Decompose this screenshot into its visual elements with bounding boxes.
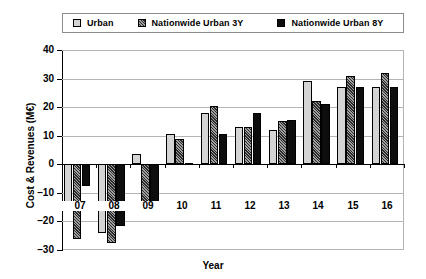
bar-nationwide-3y-14 bbox=[312, 101, 321, 164]
x-axis-tick bbox=[267, 164, 268, 168]
bar-urban-12 bbox=[235, 127, 244, 164]
x-axis-tick-label: 12 bbox=[233, 201, 267, 211]
x-axis-tick-label: 10 bbox=[165, 201, 199, 211]
x-axis-tick-label: 08 bbox=[96, 201, 132, 211]
x-axis-tick-label: 07 bbox=[62, 201, 98, 211]
x-axis-tick bbox=[336, 164, 337, 168]
x-axis-tick bbox=[233, 164, 234, 168]
bar-nationwide-3y-11 bbox=[210, 106, 219, 165]
x-axis-tick bbox=[165, 164, 166, 168]
bar-group bbox=[201, 50, 228, 250]
bar-nationwide-8y-08 bbox=[116, 164, 125, 225]
legend-item-nationwide-3y: Nationwide Urban 3Y bbox=[138, 14, 244, 32]
x-axis-tick bbox=[96, 164, 97, 168]
nationwide-3y-swatch-icon bbox=[138, 19, 146, 27]
bar-group bbox=[269, 50, 296, 250]
y-axis-tick-label: 0 bbox=[48, 159, 54, 169]
bar-nationwide-8y-10 bbox=[185, 163, 194, 165]
bar-urban-15 bbox=[337, 87, 346, 164]
x-axis-tick bbox=[404, 164, 405, 168]
legend-label-nationwide-3y: Nationwide Urban 3Y bbox=[152, 19, 244, 28]
bar-group bbox=[235, 50, 262, 250]
bar-urban-08 bbox=[98, 164, 107, 233]
x-axis-title: Year bbox=[0, 260, 426, 271]
urban-swatch-icon bbox=[73, 19, 81, 27]
y-axis-title: Cost & Revenues (M€) bbox=[25, 66, 36, 246]
x-axis-tick-label: 13 bbox=[267, 201, 301, 211]
legend-label-urban: Urban bbox=[87, 19, 114, 28]
bar-group bbox=[64, 50, 91, 250]
legend-item-nationwide-8y: Nationwide Urban 8Y bbox=[277, 14, 383, 32]
legend-item-urban: Urban bbox=[73, 14, 114, 32]
bar-group bbox=[166, 50, 193, 250]
bar-group bbox=[337, 50, 364, 250]
bar-nationwide-8y-13 bbox=[287, 120, 296, 164]
x-axis-tick-label: 15 bbox=[336, 201, 370, 211]
bar-nationwide-3y-13 bbox=[278, 121, 287, 165]
y-axis-tick-label: 10 bbox=[43, 131, 54, 141]
legend-label-nationwide-8y: Nationwide Urban 8Y bbox=[291, 19, 383, 28]
bar-nationwide-3y-15 bbox=[346, 76, 355, 165]
bar-group bbox=[372, 50, 399, 250]
y-axis-tick-label: 40 bbox=[43, 45, 54, 55]
bar-nationwide-8y-16 bbox=[390, 87, 399, 164]
chart-legend: Urban Nationwide Urban 3Y Nationwide Urb… bbox=[62, 13, 404, 33]
bar-nationwide-8y-11 bbox=[219, 134, 228, 164]
x-axis-tick-label: 09 bbox=[130, 201, 166, 211]
bar-nationwide-8y-12 bbox=[253, 113, 262, 164]
y-axis-tick-label: –20 bbox=[37, 216, 54, 226]
bar-nationwide-3y-16 bbox=[381, 73, 390, 164]
bar-urban-13 bbox=[269, 130, 278, 164]
y-axis-tick-label: –30 bbox=[37, 245, 54, 255]
bar-group bbox=[132, 50, 159, 250]
bar-urban-09 bbox=[132, 154, 141, 164]
y-axis-tick-label: 20 bbox=[43, 102, 54, 112]
bar-nationwide-3y-10 bbox=[175, 139, 184, 165]
bar-urban-16 bbox=[372, 87, 381, 164]
x-axis-tick-label: 11 bbox=[199, 201, 233, 211]
bar-group bbox=[98, 50, 125, 250]
y-axis-tick bbox=[57, 250, 62, 251]
y-axis-tick-label: 30 bbox=[43, 74, 54, 84]
x-axis-tick bbox=[130, 164, 131, 168]
x-axis-tick-label: 16 bbox=[370, 201, 404, 211]
bar-urban-11 bbox=[201, 113, 210, 164]
bar-nationwide-8y-07 bbox=[82, 164, 91, 185]
bar-series-layer bbox=[62, 50, 404, 250]
bar-group bbox=[303, 50, 330, 250]
bar-chart: Urban Nationwide Urban 3Y Nationwide Urb… bbox=[0, 0, 426, 279]
bar-urban-14 bbox=[303, 81, 312, 164]
bar-nationwide-8y-14 bbox=[321, 104, 330, 164]
y-axis-tick-label: –10 bbox=[37, 188, 54, 198]
x-axis-tick bbox=[199, 164, 200, 168]
x-axis-tick bbox=[301, 164, 302, 168]
nationwide-8y-swatch-icon bbox=[277, 19, 285, 27]
bar-nationwide-3y-12 bbox=[244, 127, 253, 164]
x-axis-tick-label: 14 bbox=[301, 201, 335, 211]
bar-urban-10 bbox=[166, 134, 175, 165]
bar-nationwide-8y-15 bbox=[356, 87, 365, 164]
x-axis-tick bbox=[370, 164, 371, 168]
